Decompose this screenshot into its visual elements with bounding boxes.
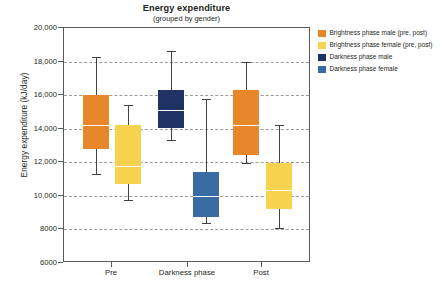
legend-item[interactable]: Brightness phase male (pre, post) [318,29,442,38]
y-tick-label: 12,000 [34,157,57,166]
gridline [64,229,309,230]
legend-item[interactable]: Darkness phase male [318,53,442,62]
median-line [158,110,184,111]
legend-swatch-icon [318,30,326,38]
box-rect [115,125,141,185]
x-tick-label: Darkness phase [159,268,215,277]
legend-item-label: Brightness phase female (pre, post) [330,41,433,50]
y-tick-label: 18,000 [34,56,57,65]
box-rect [266,163,292,209]
whisker-cap-upper [202,99,211,100]
legend-swatch-icon [318,42,326,50]
x-tick-mark [111,262,112,267]
y-axis-ticks: 6000800010,00012,00014,00016,00018,00020… [0,0,57,285]
whisker-cap-lower [275,228,284,229]
y-tick-label: 6000 [40,258,57,267]
x-tick-label: Pre [105,268,117,277]
gridline [64,62,309,63]
y-tick-mark [58,262,63,263]
whisker-cap-lower [202,223,211,224]
whisker-cap-upper [275,125,284,126]
whisker-cap-lower [167,140,176,141]
whisker-cap-upper [167,51,176,52]
box-rect [193,172,219,216]
median-line [193,196,219,197]
whisker-cap-lower [242,163,251,164]
page-title: Energy expenditure [63,4,310,14]
whisker-cap-lower [124,200,133,201]
chart-title-block: Energy expenditure (grouped by gender) [63,4,310,22]
whisker-cap-lower [92,174,101,175]
x-tick-mark [261,262,262,267]
whisker-cap-upper [92,57,101,58]
y-tick-label: 16,000 [34,90,57,99]
whisker-cap-upper [124,105,133,106]
legend-item-label: Brightness phase male (pre, post) [330,29,428,38]
legend-swatch-icon [318,54,326,62]
box-rect [83,95,109,149]
legend: Brightness phase male (pre, post)Brightn… [318,29,442,77]
legend-item[interactable]: Brightness phase female (pre, post) [318,41,442,50]
chart-figure: Energy expenditure (grouped by gender) E… [0,0,442,285]
box-rect [158,90,184,128]
median-line [233,125,259,126]
y-tick-label: 14,000 [34,123,57,132]
median-line [83,125,109,126]
legend-item-label: Darkness phase male [330,53,393,62]
median-line [266,190,292,191]
x-tick-label: Post [253,268,269,277]
y-tick-label: 8000 [40,224,57,233]
y-tick-label: 10,000 [34,190,57,199]
legend-swatch-icon [318,66,326,74]
whisker-cap-upper [242,62,251,63]
legend-item-label: Darkness phase female [330,65,398,74]
y-tick-label: 20,000 [34,23,57,32]
plot-area [63,27,310,262]
legend-item[interactable]: Darkness phase female [318,65,442,74]
median-line [115,166,141,167]
box-rect [233,90,259,155]
chart-subtitle: (grouped by gender) [63,15,310,23]
x-tick-mark [187,262,188,267]
